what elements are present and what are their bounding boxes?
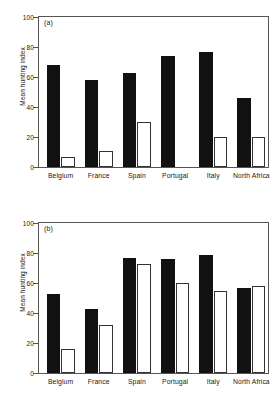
y-tick-mark — [33, 223, 38, 224]
bar-open — [214, 137, 228, 167]
x-tick-label: Spain — [128, 172, 146, 179]
x-tick-label: North Africa — [233, 378, 270, 385]
bar-open — [61, 157, 75, 168]
bar-open — [137, 264, 151, 374]
bar-open — [214, 291, 228, 374]
y-tick-mark — [33, 343, 38, 344]
y-tick-label: 60 — [8, 74, 34, 81]
y-tick-mark — [33, 253, 38, 254]
y-tick-mark — [33, 137, 38, 138]
y-tick-label: 100 — [8, 14, 34, 21]
figure-chart-mean-hunting-index: (a) Mean hunting index 020406080100 Belg… — [0, 0, 275, 412]
bar-open — [252, 286, 266, 373]
y-tick-label: 0 — [8, 370, 34, 377]
bar-filled — [161, 259, 175, 373]
y-tick-mark — [33, 77, 38, 78]
x-tick-label: Belgium — [48, 378, 73, 385]
y-tick-mark — [33, 167, 38, 168]
y-tick-label: 20 — [8, 340, 34, 347]
bar-filled — [85, 80, 99, 167]
bar-filled — [47, 294, 61, 374]
y-tick-label: 40 — [8, 104, 34, 111]
y-tick-label: 60 — [8, 280, 34, 287]
chart-panel-b: (b) Mean hunting index 020406080100 Belg… — [0, 206, 275, 412]
bar-open — [137, 122, 151, 167]
bars-area-a — [39, 17, 268, 167]
chart-panel-a: (a) Mean hunting index 020406080100 Belg… — [0, 0, 275, 206]
y-tick-mark — [33, 107, 38, 108]
bar-open — [176, 283, 190, 373]
x-tick-label: Italy — [207, 378, 220, 385]
bar-open — [252, 137, 266, 167]
bar-filled — [237, 98, 251, 167]
y-tick-label: 20 — [8, 134, 34, 141]
x-tick-label: Italy — [207, 172, 220, 179]
bar-filled — [123, 258, 137, 374]
bar-filled — [123, 73, 137, 168]
y-tick-label: 80 — [8, 250, 34, 257]
y-tick-label: 100 — [8, 220, 34, 227]
x-tick-label: North Africa — [233, 172, 270, 179]
bars-area-b — [39, 223, 268, 373]
y-tick-label: 80 — [8, 44, 34, 51]
y-tick-label: 40 — [8, 310, 34, 317]
x-tick-label: Spain — [128, 378, 146, 385]
bar-filled — [199, 255, 213, 374]
bar-filled — [161, 56, 175, 167]
bar-filled — [237, 288, 251, 374]
bar-open — [61, 349, 75, 373]
x-tick-label: Belgium — [48, 172, 73, 179]
bar-open — [99, 151, 113, 168]
x-tick-label: France — [88, 172, 110, 179]
bar-filled — [199, 52, 213, 168]
bar-filled — [85, 309, 99, 374]
x-tick-label: Portugal — [162, 172, 188, 179]
y-tick-mark — [33, 373, 38, 374]
y-tick-mark — [33, 313, 38, 314]
x-tick-label: Portugal — [162, 378, 188, 385]
y-tick-label: 0 — [8, 164, 34, 171]
y-tick-mark — [33, 17, 38, 18]
x-tick-label: France — [88, 378, 110, 385]
y-tick-mark — [33, 47, 38, 48]
bar-open — [99, 325, 113, 373]
y-tick-mark — [33, 283, 38, 284]
bar-filled — [47, 65, 61, 167]
